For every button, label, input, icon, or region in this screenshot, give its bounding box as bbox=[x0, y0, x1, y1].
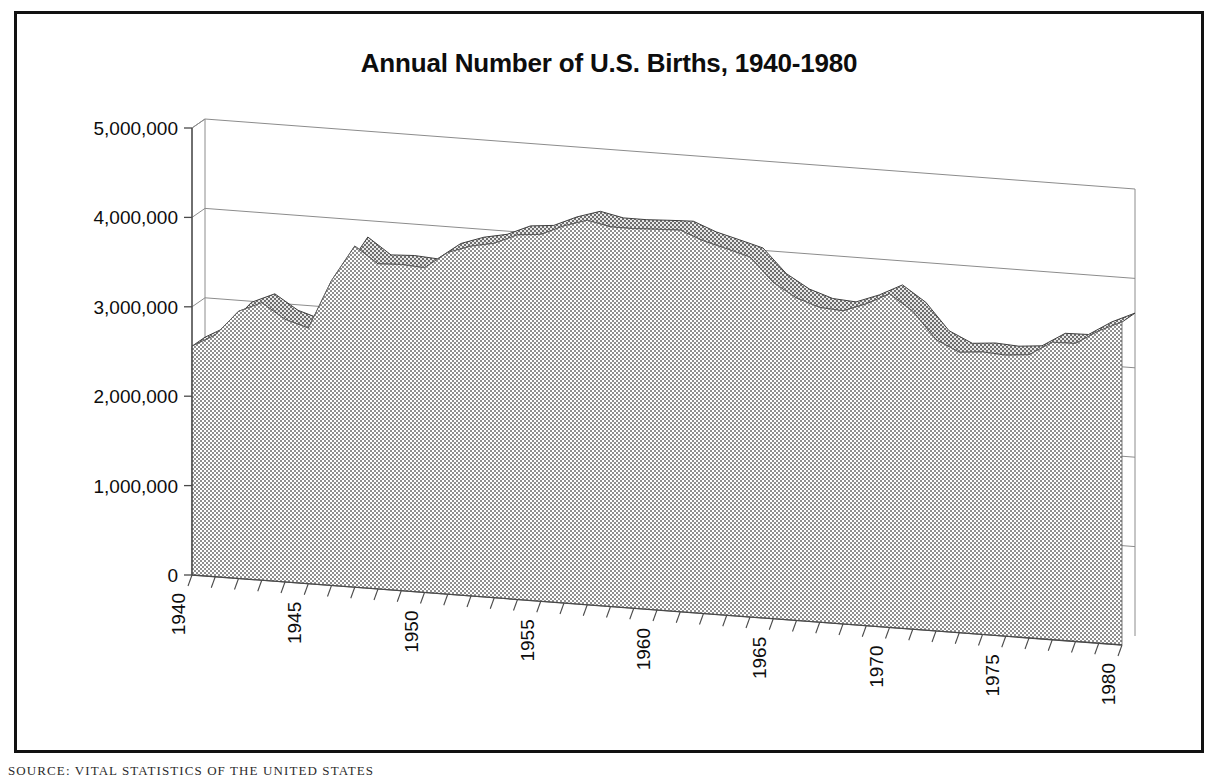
chart-outer-border bbox=[14, 11, 1204, 753]
figure-root: Annual Number of U.S. Births, 1940-1980 bbox=[0, 0, 1218, 780]
chart-title: Annual Number of U.S. Births, 1940-1980 bbox=[0, 48, 1218, 79]
source-note: SOURCE: VITAL STATISTICS OF THE UNITED S… bbox=[8, 763, 908, 780]
